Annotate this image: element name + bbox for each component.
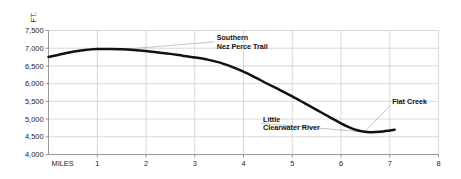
chart-canvas: 7,5007,0006,5006,0005,5005,0004,5004,000… bbox=[0, 0, 461, 179]
x-tick-label: 4 bbox=[241, 159, 245, 168]
y-axis-title: FT. bbox=[29, 12, 38, 22]
y-tick-label: 6,500 bbox=[25, 62, 44, 71]
y-tick-label: 4,500 bbox=[25, 132, 44, 141]
x-tick-label: 2 bbox=[144, 159, 148, 168]
y-tick-label: 7,500 bbox=[25, 26, 44, 35]
x-axis-tick-labels: 12345678 bbox=[95, 159, 440, 168]
elevation-profile-line bbox=[49, 49, 395, 132]
y-axis-tick-labels: 7,5007,0006,5006,0005,5005,0004,5004,000 bbox=[25, 26, 44, 159]
x-tick-label: 5 bbox=[290, 159, 294, 168]
annotation-line-2: Nez Perce Trail bbox=[217, 42, 268, 51]
x-tick-label: 8 bbox=[436, 159, 440, 168]
annotation-southern-nez-perce-trail: SouthernNez Perce Trail bbox=[217, 33, 268, 50]
y-tick-label: 4,000 bbox=[25, 150, 44, 159]
x-tick-label: 6 bbox=[339, 159, 343, 168]
vertical-gridlines bbox=[97, 31, 438, 155]
y-tick-label: 7,000 bbox=[25, 44, 44, 53]
x-tick-label: 3 bbox=[193, 159, 197, 168]
annotation-line-2: Clearwater River bbox=[263, 123, 320, 132]
x-tick-label: 1 bbox=[95, 159, 99, 168]
y-tick-label: 5,000 bbox=[25, 115, 44, 124]
y-tick-label: 5,500 bbox=[25, 97, 44, 106]
x-axis-title: MILES bbox=[52, 159, 74, 168]
annotation-line-1: Flat Creek bbox=[392, 97, 427, 106]
elevation-profile-chart: 7,5007,0006,5006,0005,5005,0004,5004,000… bbox=[0, 0, 461, 179]
annotation-flat-creek: Flat Creek bbox=[392, 97, 427, 106]
y-tick-label: 6,000 bbox=[25, 79, 44, 88]
annotation-little-clearwater-river: LittleClearwater River bbox=[263, 115, 320, 132]
annotation-leader-lines bbox=[118, 42, 390, 132]
x-tick-label: 7 bbox=[388, 159, 392, 168]
